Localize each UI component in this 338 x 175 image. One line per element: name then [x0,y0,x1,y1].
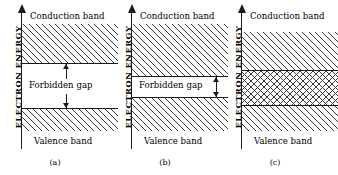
panel-b: ELECTRON ENERGY Conduction band Forbidde… [110,0,220,175]
conduction-band-region-b [132,24,228,76]
panel-caption-a: (a) [0,158,110,167]
valence-band-label-b: Valence band [144,136,202,146]
panel-c: ELECTRON ENERGY Conduction band Valence … [220,0,330,175]
panel-caption-b: (b) [110,158,220,167]
valence-band-region-b [132,98,228,131]
valence-band-label-a: Valence band [34,136,92,146]
forbidden-gap-label-a: Forbidden gap [28,80,94,90]
conduction-band-label-a: Conduction band [30,11,104,21]
valence-band-region-c [242,106,338,131]
forbidden-gap-label-b: Forbidden gap [138,80,204,90]
conduction-band-region-c [242,32,338,70]
conduction-band-label-b: Conduction band [140,11,214,21]
valence-band-region-a [22,109,118,131]
conduction-band-label-c: Conduction band [250,11,324,21]
panel-caption-c: (c) [220,158,330,167]
conduction-band-region-a [22,24,118,63]
panel-a: ELECTRON ENERGY Conduction band Forbidde… [0,0,110,175]
overlap-region-c [242,71,338,105]
valence-band-label-c: Valence band [254,136,312,146]
